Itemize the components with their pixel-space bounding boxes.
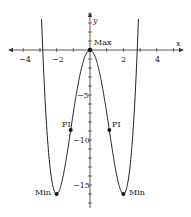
- x-tick-label: 4: [155, 55, 160, 64]
- x-axis-label: x: [176, 39, 181, 48]
- function-graph: −4 −2 2 4 x −5 −10 −15 y Max PI PI Min M…: [0, 0, 191, 217]
- x-axis-arrow-icon: [179, 48, 184, 52]
- y-tick-label: −15: [73, 181, 90, 190]
- x-axis-left-arrow-icon: [8, 48, 13, 52]
- inflection-label-left: PI: [62, 120, 71, 129]
- min-point-left: [55, 192, 59, 196]
- inflection-label-right: PI: [112, 120, 121, 129]
- x-tick-label: 2: [121, 55, 126, 64]
- max-point: [88, 48, 93, 53]
- x-tick-label: −4: [19, 55, 31, 64]
- x-tick-label: −2: [52, 55, 64, 64]
- y-axis-label: y: [92, 16, 98, 25]
- min-label-left: Min: [35, 188, 51, 197]
- inflection-point-right: [107, 128, 111, 132]
- min-point-right: [121, 192, 125, 196]
- y-axis-arrow-icon: [88, 12, 92, 17]
- max-label: Max: [94, 38, 112, 47]
- min-label-right: Min: [129, 188, 145, 197]
- y-tick-label: −10: [73, 136, 90, 145]
- y-tick-label: −5: [77, 91, 89, 100]
